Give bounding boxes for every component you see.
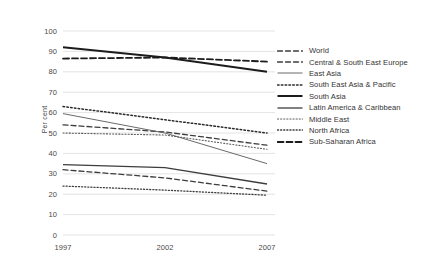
chart-container: Per cent 1009080706050403020100 19972002…	[0, 0, 442, 275]
legend-line-swatch	[277, 137, 303, 147]
y-axis-tick-label: 80	[31, 67, 57, 76]
legend-item[interactable]: Latin America & Caribbean	[277, 102, 442, 113]
y-axis-tick-label: 60	[31, 108, 57, 117]
y-axis-tick-label: 0	[31, 231, 57, 240]
chart-legend: WorldCentral & South East EuropeEast Asi…	[277, 45, 442, 148]
legend-item[interactable]: Central & South East Europe	[277, 56, 442, 67]
x-axis-tick-label: 2007	[242, 243, 292, 252]
y-axis-tick-label: 90	[31, 47, 57, 56]
y-axis-tick-label: 50	[31, 129, 57, 138]
legend-item-label: Middle East	[309, 115, 349, 124]
legend-item[interactable]: Middle East	[277, 113, 442, 124]
legend-line-swatch	[277, 80, 303, 90]
x-axis-tick-label: 1997	[38, 243, 88, 252]
y-axis-tick-label: 20	[31, 190, 57, 199]
legend-item-label: South Asia	[309, 92, 346, 101]
series-line-latin-america-caribbean	[63, 165, 267, 184]
legend-item[interactable]: World	[277, 45, 442, 56]
legend-item-label: East Asia	[309, 69, 341, 78]
legend-line-swatch	[277, 103, 303, 113]
legend-item-label: World	[309, 46, 329, 55]
legend-item-label: North Africa	[309, 126, 349, 135]
legend-line-swatch	[277, 68, 303, 78]
legend-line-swatch	[277, 114, 303, 124]
legend-item[interactable]: South Asia	[277, 91, 442, 102]
legend-line-swatch	[277, 125, 303, 135]
series-line-central-south-east-europe	[63, 170, 267, 191]
legend-item-label: Central & South East Europe	[309, 58, 408, 67]
legend-item[interactable]: North Africa	[277, 125, 442, 136]
y-axis-tick-label: 10	[31, 210, 57, 219]
legend-item[interactable]: South East Asia & Pacific	[277, 79, 442, 90]
legend-line-swatch	[277, 46, 303, 56]
y-axis-tick-label: 100	[31, 27, 57, 36]
series-line-east-asia	[63, 114, 267, 164]
series-line-sub-saharan-africa	[63, 58, 267, 62]
legend-line-swatch	[277, 57, 303, 67]
x-axis-tick-label: 2002	[140, 243, 190, 252]
y-axis-tick-label: 30	[31, 169, 57, 178]
legend-line-swatch	[277, 91, 303, 101]
series-line-middle-east	[63, 133, 267, 149]
legend-item[interactable]: Sub-Saharan Africa	[277, 136, 442, 147]
legend-item[interactable]: East Asia	[277, 68, 442, 79]
legend-item-label: South East Asia & Pacific	[309, 80, 396, 89]
y-axis-tick-label: 70	[31, 88, 57, 97]
y-axis-tick-label: 40	[31, 149, 57, 158]
legend-item-label: Sub-Saharan Africa	[309, 137, 376, 146]
y-axis-title: Per cent	[41, 90, 48, 150]
legend-item-label: Latin America & Caribbean	[309, 103, 401, 112]
